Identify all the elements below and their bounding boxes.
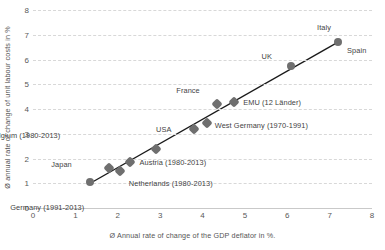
data-point[interactable] bbox=[229, 96, 240, 107]
gridline bbox=[33, 84, 372, 85]
data-point[interactable] bbox=[212, 98, 223, 109]
y-axis-tick-label: 4 bbox=[25, 105, 29, 114]
y-axis-tick-label: 2 bbox=[25, 154, 29, 163]
gridline bbox=[33, 60, 372, 61]
data-point-label: West Germany (1970-1991) bbox=[215, 121, 308, 130]
x-axis-tick-label: 0 bbox=[31, 211, 35, 220]
data-point-label: USA bbox=[156, 125, 171, 134]
y-axis-tick-label: 5 bbox=[25, 80, 29, 89]
x-axis-tick-label: 4 bbox=[200, 211, 204, 220]
data-point-label: Netherlands (1980-2013) bbox=[129, 179, 213, 188]
data-point-label: Italy bbox=[317, 23, 331, 32]
data-point[interactable] bbox=[334, 38, 342, 46]
x-axis-tick-label: 3 bbox=[158, 211, 162, 220]
y-axis-tick-label: 6 bbox=[25, 55, 29, 64]
data-point[interactable] bbox=[104, 163, 115, 174]
x-axis-tick-label: 7 bbox=[327, 211, 331, 220]
data-point-label: France bbox=[176, 86, 199, 95]
gridline bbox=[33, 134, 372, 135]
y-axis-title-text: Ø annual rate of change of unit labour c… bbox=[3, 26, 12, 188]
y-axis-tick-label: 8 bbox=[25, 6, 29, 15]
data-point-label: Austria (1980-2013) bbox=[139, 158, 206, 167]
x-axis-tick-label: 2 bbox=[116, 211, 120, 220]
gridline bbox=[33, 35, 372, 36]
data-point-label: UK bbox=[261, 52, 271, 61]
x-axis-tick-label: 8 bbox=[370, 211, 374, 220]
plot-area: 012345678012345678Germany (1991-2013)Jap… bbox=[33, 10, 372, 208]
y-axis-tick-label: 1 bbox=[25, 179, 29, 188]
data-point[interactable] bbox=[287, 62, 295, 70]
gridline bbox=[33, 109, 372, 110]
y-axis-title: Ø annual rate of change of unit labour c… bbox=[0, 0, 14, 215]
x-axis-title: Ø Annual rate of change of the GDP defla… bbox=[0, 231, 385, 240]
y-axis-tick-label: 7 bbox=[25, 30, 29, 39]
x-axis-title-text: Ø Annual rate of change of the GDP defla… bbox=[110, 231, 276, 240]
data-point[interactable] bbox=[188, 123, 199, 134]
x-axis-tick-label: 1 bbox=[73, 211, 77, 220]
data-point[interactable] bbox=[114, 165, 125, 176]
x-axis-tick-label: 5 bbox=[243, 211, 247, 220]
data-point[interactable] bbox=[150, 143, 161, 154]
scatter-chart: Ø annual rate of change of unit labour c… bbox=[0, 0, 385, 250]
data-point-label: Japan bbox=[51, 160, 72, 169]
data-point-label: Belgium (1980-2013) bbox=[0, 131, 60, 140]
data-point-label: EMU (12 Länder) bbox=[243, 98, 301, 107]
data-point[interactable] bbox=[201, 117, 212, 128]
data-point-label: Spain bbox=[347, 46, 366, 55]
x-axis-tick-label: 6 bbox=[285, 211, 289, 220]
data-point-label: Germany (1991-2013) bbox=[10, 203, 84, 212]
gridline bbox=[33, 10, 372, 11]
data-point[interactable] bbox=[86, 178, 94, 186]
